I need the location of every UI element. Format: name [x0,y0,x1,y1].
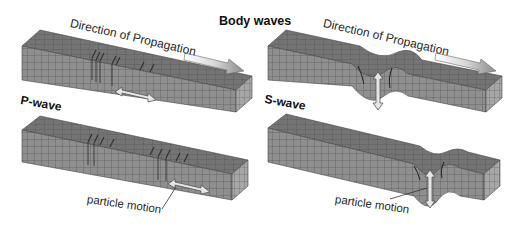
body-waves-diagram: Body waves Direction of Propagation Dire… [0,0,506,230]
p-wave-particle-leader-line [162,187,176,209]
s-wave-bottom-block [268,114,500,206]
p-wave-bottom-block [22,116,248,200]
diagram-title: Body waves [219,14,291,28]
diagram-canvas [0,0,506,230]
